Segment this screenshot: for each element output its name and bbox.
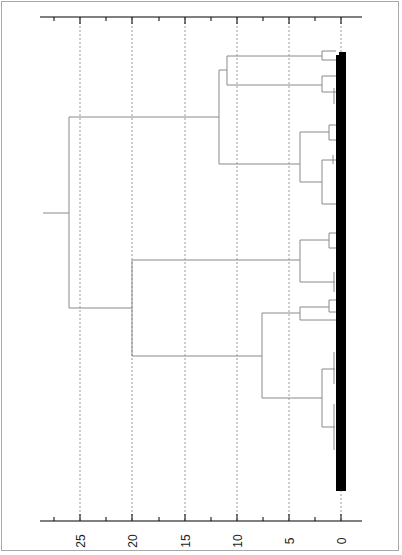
tick-label: 20 <box>126 534 140 548</box>
tick-label: 10 <box>231 534 245 548</box>
top-axis <box>40 17 362 24</box>
bottom-axis <box>40 514 362 521</box>
dendrogram-chart: 25 20 15 10 5 0 <box>0 0 402 555</box>
tick-label: 5 <box>283 537 297 544</box>
tick-label: 15 <box>179 534 193 548</box>
tick-label: 25 <box>74 534 88 548</box>
leaf-bar <box>336 52 346 491</box>
gridlines <box>80 18 341 520</box>
tick-labels: 25 20 15 10 5 0 <box>74 534 349 548</box>
tick-label: 0 <box>335 537 349 544</box>
dendrogram-branches <box>43 51 336 450</box>
